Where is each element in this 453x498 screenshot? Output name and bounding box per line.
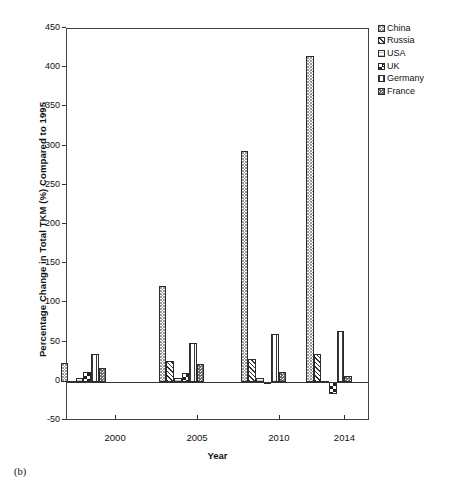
bar-uk-2013 bbox=[329, 382, 337, 394]
bar-france-2004 bbox=[197, 364, 205, 382]
plot-area bbox=[66, 28, 369, 420]
legend-item-china[interactable]: China bbox=[378, 22, 453, 35]
y-tick-label: 450 bbox=[45, 21, 60, 34]
legend-swatch-icon bbox=[378, 25, 385, 32]
y-tick-label: -50 bbox=[47, 413, 60, 426]
bar-france-1998 bbox=[99, 368, 107, 381]
bar-germany-2004 bbox=[189, 343, 197, 382]
bar-germany-1998 bbox=[91, 354, 99, 381]
legend-item-label: France bbox=[387, 86, 415, 97]
x-tick-label: 2005 bbox=[175, 432, 219, 443]
legend-item-label: China bbox=[387, 23, 411, 34]
legend-item-label: USA bbox=[387, 48, 406, 59]
bar-russia-2004 bbox=[166, 361, 174, 382]
bar-china-2004 bbox=[159, 286, 167, 382]
figure-panel-b: 450400350300250200150100500-50 Percentag… bbox=[0, 0, 453, 498]
legend-item-russia[interactable]: Russia bbox=[378, 35, 453, 48]
x-axis: Year 2000200520102014 bbox=[66, 420, 369, 470]
bar-russia-2009 bbox=[248, 359, 256, 382]
legend-swatch-icon bbox=[378, 75, 385, 82]
legend-item-label: Russia bbox=[387, 35, 415, 46]
y-axis-title: Percentage Change in Total TKM (%) Compa… bbox=[37, 34, 48, 426]
legend-item-label: UK bbox=[387, 61, 400, 72]
x-tick-label: 2014 bbox=[322, 432, 366, 443]
y-tick-label: 50 bbox=[50, 335, 60, 348]
bar-france-2009 bbox=[279, 372, 287, 382]
legend-swatch-icon bbox=[378, 88, 385, 95]
zero-baseline bbox=[67, 382, 368, 383]
x-tick-mark bbox=[279, 415, 280, 420]
legend-item-label: Germany bbox=[387, 73, 424, 84]
x-tick-label: 2000 bbox=[93, 432, 137, 443]
bars-layer bbox=[67, 29, 368, 419]
legend-item-usa[interactable]: USA bbox=[378, 47, 453, 60]
bar-china-1998 bbox=[61, 363, 69, 382]
legend-swatch-icon bbox=[378, 50, 385, 57]
legend-swatch-icon bbox=[378, 37, 385, 44]
x-axis-title: Year bbox=[66, 450, 369, 461]
legend-swatch-icon bbox=[378, 63, 385, 70]
bar-germany-2009 bbox=[271, 334, 279, 382]
legend-item-germany[interactable]: Germany bbox=[378, 72, 453, 85]
x-tick-mark bbox=[115, 415, 116, 420]
y-axis: 450400350300250200150100500-50 bbox=[0, 28, 66, 420]
bar-russia-2013 bbox=[314, 354, 322, 382]
x-tick-label: 2010 bbox=[257, 432, 301, 443]
bar-china-2009 bbox=[241, 151, 249, 381]
legend-item-france[interactable]: France bbox=[378, 85, 453, 98]
bar-germany-2013 bbox=[337, 331, 345, 382]
bar-china-2013 bbox=[306, 56, 314, 381]
legend: ChinaRussiaUSAUKGermanyFrance bbox=[378, 22, 453, 98]
bar-uk-1998 bbox=[83, 372, 91, 381]
legend-item-uk[interactable]: UK bbox=[378, 60, 453, 73]
y-axis-title-wrap: Percentage Change in Total TKM (%) Compa… bbox=[14, 28, 30, 420]
y-tick-label: 0 bbox=[55, 374, 60, 387]
x-tick-mark bbox=[344, 415, 345, 420]
bar-uk-2004 bbox=[182, 373, 190, 382]
x-tick-mark bbox=[197, 415, 198, 420]
figure-caption: (b) bbox=[14, 466, 26, 477]
